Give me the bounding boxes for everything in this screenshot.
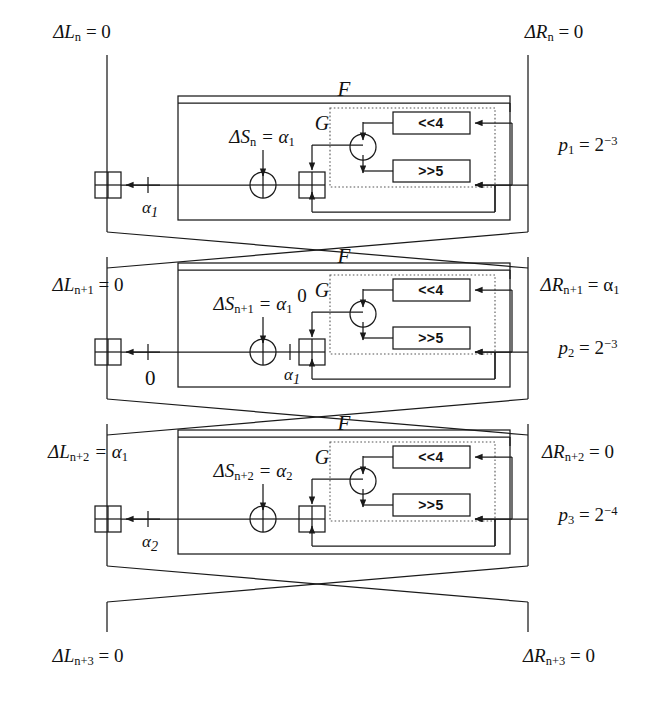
wire-label-left-2: 0 bbox=[145, 366, 156, 391]
delta-s-label-2: ΔSn+1 = α1 bbox=[214, 294, 293, 316]
g-label-2: G bbox=[315, 280, 329, 300]
shift-right-label-2: >>5 bbox=[418, 330, 444, 346]
wire-label-left-1: α1 bbox=[142, 198, 158, 221]
round-1-graphics bbox=[95, 90, 528, 232]
top-input-stems bbox=[107, 55, 528, 90]
bottom-left-label: ΔLn+3 = 0 bbox=[52, 646, 123, 668]
f-label-1: F bbox=[338, 79, 351, 100]
top-right-label: ΔRn = 0 bbox=[525, 22, 584, 44]
delta-s-label-3: ΔSn+2 = α2 bbox=[214, 461, 293, 483]
round-2-graphics bbox=[95, 257, 528, 399]
g-label-1: G bbox=[315, 113, 329, 133]
shift-left-label-2: <<4 bbox=[418, 282, 444, 298]
round-2-right-input-label: ΔRn+1 = α1 bbox=[541, 275, 620, 297]
top-left-label: ΔLn = 0 bbox=[53, 22, 111, 44]
f-label-3: F bbox=[338, 413, 351, 434]
f-label-2: F bbox=[338, 246, 351, 267]
wire-label-left-3: α2 bbox=[142, 532, 158, 555]
shift-left-label-3: <<4 bbox=[418, 449, 444, 465]
g-input-label-2: 0 bbox=[297, 285, 307, 307]
round-2-left-input-label: ΔLn+1 = 0 bbox=[52, 275, 123, 297]
shift-right-label-1: >>5 bbox=[418, 163, 444, 179]
probability-label-2: p2 = 2−3 bbox=[559, 338, 618, 360]
probability-label-3: p3 = 2−4 bbox=[559, 505, 618, 527]
round-3-graphics bbox=[95, 424, 528, 566]
shift-left-label-1: <<4 bbox=[418, 115, 444, 131]
bottom-right-label: ΔRn+3 = 0 bbox=[523, 646, 595, 668]
probability-label-1: p1 = 2−3 bbox=[559, 135, 618, 157]
g-label-3: G bbox=[315, 447, 329, 467]
bottom-output-stems bbox=[107, 602, 528, 632]
wire-label-mid-2: α1 bbox=[284, 365, 300, 388]
crossover-3 bbox=[107, 566, 528, 602]
diagram-canvas: ΔLn = 0 ΔRn = 0 F G <<4 >>5 ΔSn = α1 α1 … bbox=[0, 0, 666, 701]
round-3-right-input-label: ΔRn+2 = 0 bbox=[542, 442, 614, 464]
round-3-left-input-label: ΔLn+2 = α1 bbox=[48, 442, 128, 464]
delta-s-label-1: ΔSn = α1 bbox=[229, 127, 294, 149]
shift-right-label-3: >>5 bbox=[418, 497, 444, 513]
